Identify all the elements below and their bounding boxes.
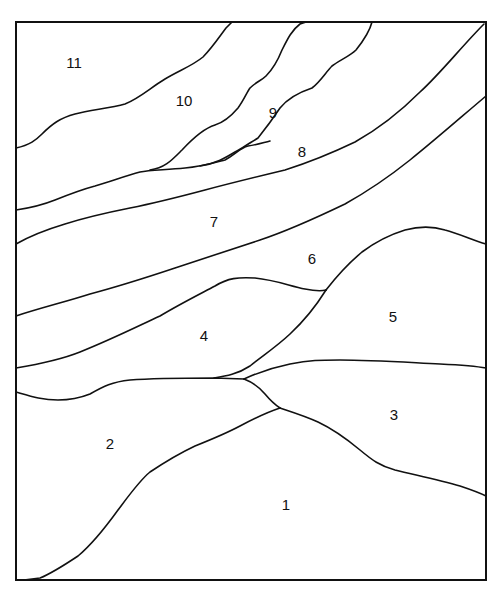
boundary-6-5 xyxy=(326,227,486,290)
region-label-7: 7 xyxy=(210,214,218,229)
boundary-10-9 xyxy=(150,22,306,170)
boundary-1-3 xyxy=(280,408,486,496)
region-label-6: 6 xyxy=(308,251,316,266)
boundary-11-10 xyxy=(16,22,232,148)
region-label-3: 3 xyxy=(390,407,398,422)
region-label-10: 10 xyxy=(176,93,193,108)
region-label-9: 9 xyxy=(269,105,277,120)
boundary-7-6 xyxy=(16,96,486,316)
boundary-1-2 xyxy=(24,408,280,580)
boundary-5-3 xyxy=(244,360,486,379)
region-label-2: 2 xyxy=(106,436,114,451)
region-label-5: 5 xyxy=(389,309,397,324)
boundary-8-7 xyxy=(16,24,484,244)
region-diagram xyxy=(0,0,502,590)
boundary-6-4 xyxy=(16,278,326,368)
boundary-4-5 xyxy=(214,290,326,378)
region-label-1: 1 xyxy=(282,497,290,512)
region-label-4: 4 xyxy=(200,328,208,343)
diagram-frame xyxy=(16,22,486,580)
boundary-10-8 xyxy=(16,141,270,210)
region-label-11: 11 xyxy=(66,55,82,70)
boundary-4-2 xyxy=(16,378,244,400)
boundary-2-3 xyxy=(244,379,280,408)
region-label-8: 8 xyxy=(298,144,306,159)
